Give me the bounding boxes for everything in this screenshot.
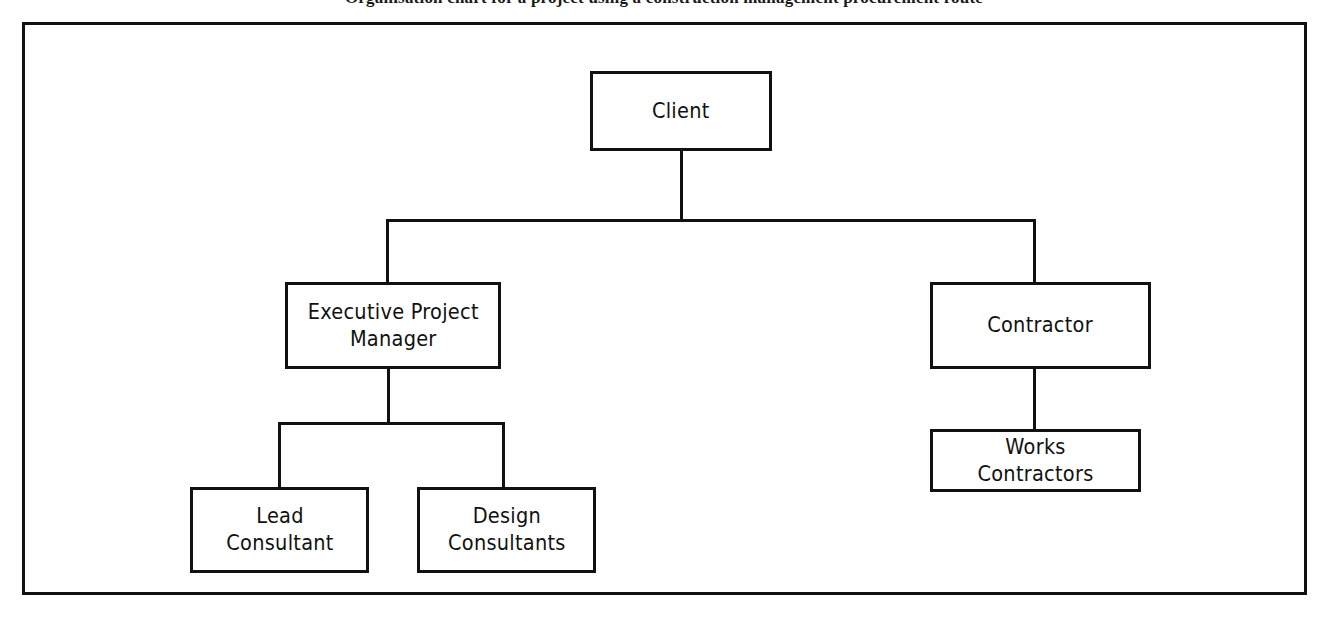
node-design-consultants-label: Design Consultants xyxy=(448,503,566,557)
diagram-page: Organisation chart for a project using a… xyxy=(0,0,1328,625)
node-works-contractors-label: Works Contractors xyxy=(945,434,1125,488)
connector-exec-pm-to-bus xyxy=(387,366,390,425)
node-contractor[interactable]: Contractor xyxy=(930,282,1151,369)
figure-caption: Organisation chart for a project using a… xyxy=(0,0,1328,8)
node-lead-consultant-label: Lead Consultant xyxy=(226,503,333,557)
connector-level1-bus xyxy=(386,219,1036,222)
connector-level2-bus xyxy=(278,422,505,425)
node-executive-project-manager[interactable]: Executive Project Manager xyxy=(285,282,501,369)
connector-bus-to-design-consultants xyxy=(502,422,505,490)
connector-contractor-to-works-contractors xyxy=(1033,366,1036,432)
node-works-contractors[interactable]: Works Contractors xyxy=(930,429,1141,492)
node-design-consultants[interactable]: Design Consultants xyxy=(417,487,596,573)
node-client[interactable]: Client xyxy=(590,71,772,151)
connector-bus-to-exec-pm xyxy=(386,219,389,285)
node-lead-consultant[interactable]: Lead Consultant xyxy=(190,487,369,573)
connector-client-to-bus xyxy=(680,150,683,221)
connector-bus-to-lead-consultant xyxy=(278,422,281,490)
node-client-label: Client xyxy=(652,98,710,125)
node-executive-project-manager-label: Executive Project Manager xyxy=(307,299,478,353)
connector-bus-to-contractor xyxy=(1033,219,1036,285)
node-contractor-label: Contractor xyxy=(988,312,1094,339)
